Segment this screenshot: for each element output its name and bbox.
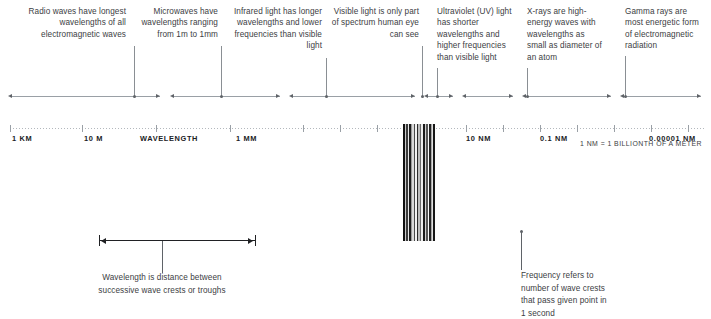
ruler-tick bbox=[540, 125, 541, 132]
axis-arrow-right-icon bbox=[156, 94, 160, 98]
wavelength-note-leader-line bbox=[162, 241, 163, 273]
axis-segment bbox=[466, 96, 513, 97]
ruler-label-1mm: 1 MM bbox=[236, 134, 257, 143]
axis-arrow-right-icon bbox=[411, 94, 415, 98]
axis-anchor-dot bbox=[526, 95, 529, 98]
axis-anchor-dot bbox=[436, 95, 439, 98]
axis-anchor-dot bbox=[325, 95, 328, 98]
ruler-tick bbox=[10, 125, 11, 132]
callout-ultraviolet: Ultraviolet (UV) light has shorter wavel… bbox=[437, 6, 517, 63]
axis-arrow-right-icon bbox=[509, 94, 513, 98]
axis-anchor-dot bbox=[133, 95, 136, 98]
electromagnetic-spectrum-diagram: Radio waves have longest wavelengths of … bbox=[0, 0, 711, 319]
frequency-leader-line bbox=[521, 232, 522, 270]
wavelength-definition-note: Wavelength is distance between successiv… bbox=[87, 272, 237, 297]
ruler-tick bbox=[82, 125, 83, 132]
frequency-anchor-dot bbox=[520, 230, 523, 233]
ruler-label-wavelength: WAVELENGTH bbox=[140, 134, 198, 143]
axis-arrow-right-icon bbox=[607, 94, 611, 98]
measure-cap-left bbox=[99, 235, 100, 246]
callout-radio-waves-leader-line bbox=[134, 46, 135, 96]
axis-anchor-dot bbox=[421, 95, 424, 98]
callout-x-rays: X-rays are high-energy waves with wavele… bbox=[527, 6, 605, 63]
axis-segment bbox=[293, 96, 415, 97]
callout-ultraviolet-leader-line bbox=[437, 68, 438, 96]
measure-arrow-left-icon bbox=[101, 238, 106, 244]
ruler-tick bbox=[651, 125, 652, 132]
axis-end-arrow-icon bbox=[697, 94, 701, 98]
measure-arrow-right-icon bbox=[248, 238, 253, 244]
ruler-tick bbox=[303, 125, 304, 132]
callout-gamma-rays-leader-line bbox=[625, 56, 626, 96]
axis-segment bbox=[174, 96, 280, 97]
callout-infrared: Infrared light has longer wavelengths an… bbox=[222, 6, 322, 52]
ruler-label-1km: 1 KM bbox=[12, 134, 32, 143]
ruler-tick bbox=[614, 125, 615, 132]
measure-cap-right bbox=[255, 235, 256, 246]
ruler-label-01nm: 0.1 NM bbox=[540, 134, 568, 143]
callout-visible-light: Visible light is only part of spectrum h… bbox=[330, 6, 419, 40]
ruler-tick bbox=[466, 125, 467, 132]
callout-radio-waves: Radio waves have longest wavelengths of … bbox=[8, 6, 126, 40]
ruler-baseline bbox=[10, 128, 705, 129]
callout-x-rays-leader-line bbox=[527, 68, 528, 96]
ruler-tick bbox=[503, 125, 504, 132]
ruler-tick bbox=[577, 125, 578, 132]
axis-segment bbox=[526, 96, 611, 97]
ruler-tick bbox=[688, 125, 689, 132]
ruler-unit-note: 1 NM = 1 BILLIONTH OF A METER bbox=[580, 140, 702, 147]
visible-light-spectrum-bars bbox=[403, 124, 435, 241]
axis-arrow-right-icon bbox=[449, 94, 453, 98]
axis-segment bbox=[10, 96, 160, 97]
axis-anchor-dot bbox=[624, 95, 627, 98]
measure-span-line bbox=[99, 240, 255, 241]
callout-microwaves-leader-line bbox=[221, 46, 222, 96]
ruler-tick bbox=[340, 125, 341, 132]
axis-arrow-right-icon bbox=[276, 94, 280, 98]
ruler-label-10nm: 10 NM bbox=[466, 134, 491, 143]
axis-start-arrow-icon bbox=[8, 94, 12, 98]
axis-anchor-dot bbox=[220, 95, 223, 98]
frequency-definition-note: Frequency refers to number of wave crest… bbox=[521, 270, 613, 319]
spectrum-stripe bbox=[433, 124, 435, 241]
ruler-tick bbox=[230, 125, 231, 132]
axis-segment bbox=[624, 96, 701, 97]
callout-visible-light-leader-line bbox=[422, 46, 423, 96]
ruler-label-10m: 10 M bbox=[84, 134, 103, 143]
callout-gamma-rays: Gamma rays are most energetic form of el… bbox=[625, 6, 707, 52]
ruler-tick bbox=[156, 125, 157, 132]
callout-microwaves: Microwaves have wavelengths ranging from… bbox=[128, 6, 218, 40]
callout-infrared-leader-line bbox=[326, 58, 327, 96]
ruler-tick bbox=[377, 125, 378, 132]
